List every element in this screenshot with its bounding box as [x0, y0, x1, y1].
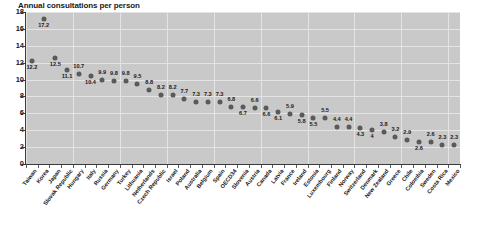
data-point[interactable] — [381, 129, 386, 134]
data-point[interactable] — [123, 79, 128, 84]
data-point[interactable] — [428, 140, 433, 145]
data-point[interactable] — [299, 113, 304, 118]
gridline-vertical — [354, 12, 355, 164]
y-axis-line — [25, 12, 26, 165]
gridline-vertical — [167, 12, 168, 164]
data-point[interactable] — [135, 81, 140, 86]
y-axis-tick-mark — [21, 12, 25, 13]
data-point-label: 3.8 — [380, 122, 388, 128]
gridline-vertical — [308, 12, 309, 164]
data-point[interactable] — [29, 58, 34, 63]
data-point[interactable] — [334, 124, 339, 129]
data-point[interactable] — [252, 106, 257, 111]
gridline-horizontal — [26, 96, 460, 97]
data-point[interactable] — [241, 105, 246, 110]
data-point-label: 9.8 — [122, 71, 130, 77]
data-point[interactable] — [182, 96, 187, 101]
data-point[interactable] — [276, 110, 281, 115]
gridline-vertical — [120, 12, 121, 164]
x-axis-label-text: Taiwan — [22, 168, 38, 187]
gridline-vertical — [401, 12, 402, 164]
data-point-label: 10.7 — [73, 64, 84, 70]
data-point-label: 6.1 — [274, 116, 282, 122]
gridline-horizontal — [26, 63, 460, 64]
y-axis-tick-mark — [21, 113, 25, 114]
data-point-label: 9.5 — [134, 74, 142, 80]
gridline-horizontal — [26, 29, 460, 30]
data-point[interactable] — [440, 142, 445, 147]
data-point-label: 6.7 — [239, 111, 247, 117]
y-axis-tick-mark — [21, 130, 25, 131]
data-point[interactable] — [346, 124, 351, 129]
data-point[interactable] — [194, 100, 199, 105]
data-point-label: 7.7 — [180, 89, 188, 95]
data-point[interactable] — [358, 125, 363, 130]
data-point-label: 2.3 — [439, 135, 447, 141]
data-point[interactable] — [452, 142, 457, 147]
data-point[interactable] — [111, 79, 116, 84]
data-point-label: 2.9 — [403, 130, 411, 136]
data-point[interactable] — [76, 71, 81, 76]
data-point[interactable] — [287, 112, 292, 117]
gridline-horizontal — [26, 12, 460, 13]
data-point-label: 7.3 — [204, 92, 212, 98]
data-point[interactable] — [323, 115, 328, 120]
gridline-vertical — [26, 12, 27, 164]
data-point-label: 2.6 — [415, 146, 423, 152]
data-point[interactable] — [53, 56, 58, 61]
gridline-vertical — [261, 12, 262, 164]
data-point-label: 4 — [370, 134, 373, 140]
data-point[interactable] — [217, 100, 222, 105]
y-axis-tick-mark — [21, 46, 25, 47]
data-point[interactable] — [147, 87, 152, 92]
data-point-label: 5.8 — [298, 119, 306, 125]
data-point[interactable] — [264, 106, 269, 111]
data-point-label: 8.2 — [157, 85, 165, 91]
y-axis-tick-mark — [21, 80, 25, 81]
data-point-label: 6.6 — [251, 98, 259, 104]
data-point-label: 11.1 — [62, 74, 73, 80]
gridline-horizontal — [26, 46, 460, 47]
data-point-label: 7.3 — [192, 92, 200, 98]
data-point[interactable] — [416, 140, 421, 145]
data-point[interactable] — [393, 134, 398, 139]
data-point[interactable] — [100, 78, 105, 83]
data-point-label: 5.5 — [309, 122, 317, 128]
data-point-label: 2.3 — [450, 135, 458, 141]
data-point-label: 12.2 — [26, 65, 37, 71]
data-point-label: 4.4 — [345, 117, 353, 123]
data-point[interactable] — [41, 16, 46, 21]
y-axis-tick-mark — [21, 63, 25, 64]
data-point[interactable] — [158, 92, 163, 97]
data-point-label: 8.8 — [145, 80, 153, 86]
data-point-label: 2.6 — [427, 132, 435, 138]
data-point[interactable] — [88, 74, 93, 79]
data-point[interactable] — [311, 115, 316, 120]
data-point[interactable] — [229, 104, 234, 109]
y-axis-tick-mark — [21, 96, 25, 97]
y-axis-ticks: 024681012141618 — [0, 0, 24, 229]
data-point-label: 4.3 — [356, 132, 364, 138]
y-axis-tick-mark — [21, 147, 25, 148]
y-axis-tick-mark — [21, 29, 25, 30]
data-point-label: 10.4 — [85, 80, 96, 86]
data-point-label: 9.8 — [110, 71, 118, 77]
data-point-label: 8.2 — [169, 85, 177, 91]
data-point-label: 12.5 — [50, 62, 61, 68]
data-point-label: 7.3 — [216, 92, 224, 98]
data-point-label: 4.4 — [333, 117, 341, 123]
data-point[interactable] — [170, 92, 175, 97]
data-point[interactable] — [370, 128, 375, 133]
data-point-label: 5.5 — [321, 108, 329, 114]
chart-title: Annual consultations per person — [18, 1, 140, 10]
data-point-label: 17.2 — [38, 23, 49, 29]
data-point-label: 5.9 — [286, 104, 294, 110]
data-point[interactable] — [205, 100, 210, 105]
gridline-vertical — [214, 12, 215, 164]
y-axis-tick-mark — [21, 164, 25, 165]
data-point-label: 6.6 — [263, 112, 271, 118]
data-point[interactable] — [65, 68, 70, 73]
data-point-label: 9.9 — [98, 70, 106, 76]
x-axis-tick-mark — [26, 165, 27, 168]
data-point-label: 3.2 — [392, 127, 400, 133]
